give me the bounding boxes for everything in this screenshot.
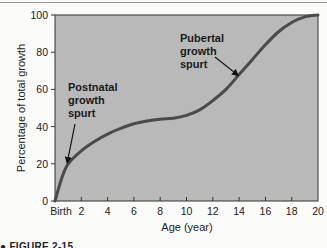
x-tick-label: 18 bbox=[286, 205, 298, 217]
y-tick-label: 100 bbox=[30, 9, 48, 21]
annotation-label: Pubertal bbox=[180, 32, 224, 44]
y-axis-title: Percentage of total growth bbox=[15, 44, 27, 172]
x-tick-label: 20 bbox=[312, 205, 324, 217]
x-tick-label: 8 bbox=[157, 205, 163, 217]
x-axis-title: Age (year) bbox=[161, 221, 212, 233]
x-tick-label: 14 bbox=[233, 205, 245, 217]
x-tick-label: 2 bbox=[78, 205, 84, 217]
annotation-label: spurt bbox=[68, 107, 96, 119]
y-tick-label: 80 bbox=[36, 46, 48, 58]
annotation-label: growth bbox=[180, 45, 217, 57]
annotation-label: Postnatal bbox=[68, 81, 118, 93]
x-tick-label: 12 bbox=[207, 205, 219, 217]
figure-caption: ● FIGURE 2-15 bbox=[0, 240, 73, 248]
y-tick-label: 20 bbox=[36, 158, 48, 170]
x-tick-label: 16 bbox=[260, 205, 272, 217]
y-axis: 020406080100 bbox=[30, 9, 55, 207]
y-tick-label: 40 bbox=[36, 121, 48, 133]
annotation-label: growth bbox=[68, 94, 105, 106]
y-tick-label: 60 bbox=[36, 83, 48, 95]
y-tick-label: 0 bbox=[42, 195, 48, 207]
x-tick-label: 6 bbox=[131, 205, 137, 217]
annotation-label: spurt bbox=[180, 58, 208, 70]
growth-chart: 020406080100 Birth2468101214161820 Postn… bbox=[0, 0, 327, 240]
x-tick-label: 4 bbox=[105, 205, 111, 217]
x-tick-label: Birth bbox=[50, 205, 72, 217]
x-tick-label: 10 bbox=[181, 205, 193, 217]
